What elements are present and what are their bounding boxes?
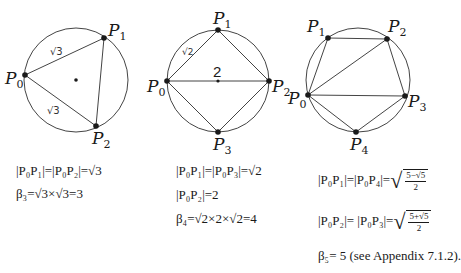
radical-icon: √	[390, 168, 402, 193]
label-P0: P0	[287, 88, 306, 111]
triangle-edge-lengths: |P₀P₁|=|P₀P₂|=√3	[16, 163, 102, 179]
pentagon-eq2-lhs: |P₀P₂|= |P₀P₃|=	[318, 213, 393, 228]
point-P1	[215, 27, 221, 33]
point-P1	[101, 35, 107, 41]
pentagon-eq1-fraction: 5−√52	[403, 169, 428, 193]
label-P0: P0	[4, 68, 23, 91]
point-P2	[266, 78, 272, 84]
fraction-numerator: 5+√5	[408, 211, 429, 223]
pentagon-short-diagonal: |P₀P₁|=|P₀P₄|=√5−√52	[318, 168, 428, 194]
pentagon-diagonal-P0P3	[308, 95, 405, 96]
center-point	[74, 78, 78, 82]
edge-label-sqrt3-bottom: √3	[47, 105, 60, 116]
label-P3: P3	[212, 134, 231, 157]
pentagon-eq1-lhs: |P₀P₁|=|P₀P₄|=	[318, 172, 390, 187]
fraction-numerator: 5−√5	[405, 170, 426, 182]
pentagon-circumcircle	[306, 28, 410, 132]
label-P3: P3	[407, 91, 426, 114]
label-P1: P1	[107, 20, 126, 43]
label-P2: P2	[387, 16, 406, 39]
diagonal-label-2: 2	[213, 63, 221, 80]
point-P0	[22, 72, 28, 78]
label-P2: P2	[91, 128, 110, 151]
label-P4: P4	[349, 134, 368, 157]
label-P1: P1	[306, 16, 325, 39]
point-P0	[305, 92, 311, 98]
pentagon-diagonal-P0P2	[308, 39, 387, 95]
square-beta: β₄=√2×2×√2=4	[176, 211, 257, 227]
pentagon-long-diagonal: |P₀P₂|= |P₀P₃|=√5+√52	[318, 209, 431, 235]
point-P0	[164, 78, 170, 84]
pentagon-beta: β₅= 5 (see Appendix 7.1.2).	[318, 248, 461, 264]
point-P2	[384, 36, 390, 42]
fraction-denominator: 2	[413, 182, 418, 193]
edge-label-sqrt2: √2	[182, 47, 193, 57]
label-P1: P1	[212, 8, 231, 31]
square-edge-lengths: |P₀P₁|=|P₀P₃|=√2	[176, 163, 262, 179]
point-P1	[325, 35, 331, 41]
triangle-polygon	[25, 38, 104, 126]
label-P0: P0	[146, 76, 165, 99]
edge-label-sqrt3-top: √3	[50, 46, 63, 57]
pentagon-eq2-fraction: 5+√52	[406, 210, 431, 234]
pentagon-figure	[306, 28, 410, 132]
radical-icon: √	[393, 209, 405, 234]
square-diagonal-length: |P₀P₂|=2	[176, 187, 219, 203]
triangle-beta: β₃=√3×√3=3	[16, 186, 83, 202]
point-P3	[402, 93, 408, 99]
fraction-denominator: 2	[417, 223, 422, 234]
